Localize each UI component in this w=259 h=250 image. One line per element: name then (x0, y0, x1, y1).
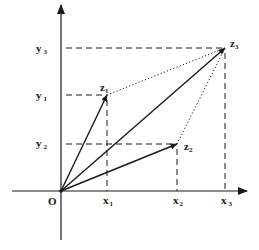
vectors (61, 48, 225, 191)
label-y3: y3 (36, 42, 48, 56)
label-y2: y2 (36, 137, 48, 151)
vector-z3 (61, 48, 225, 191)
vector-z1 (61, 95, 107, 191)
origin-label: O (48, 195, 57, 207)
label-z1: z1 (100, 81, 109, 95)
origin-point (59, 189, 63, 193)
vector-diagram: O z1 z2 z3 y3 y1 y2 x1 x2 x3 (0, 0, 259, 250)
label-x2: x2 (173, 194, 184, 208)
parallelogram-sides (107, 48, 225, 144)
vector-z2 (61, 144, 177, 191)
label-z2: z2 (184, 140, 193, 154)
label-x1: x1 (103, 194, 114, 208)
label-z3: z3 (230, 37, 239, 51)
label-y1: y1 (36, 89, 48, 103)
label-x3: x3 (221, 194, 233, 208)
